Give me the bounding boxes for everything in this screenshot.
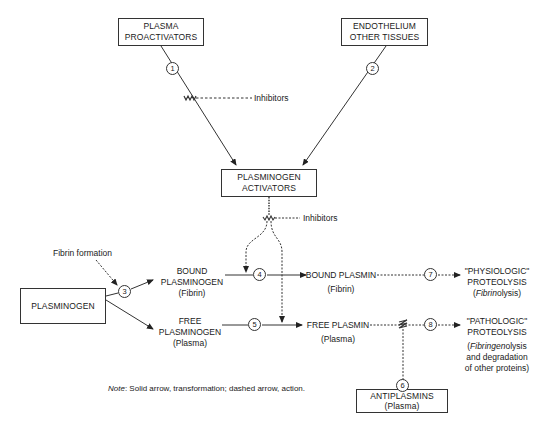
node-label: OTHER TISSUES <box>350 32 420 43</box>
node-antiplasmins: ANTIPLASMINS (Plasma) <box>356 389 448 413</box>
label-bound-plasminogen: BOUND PLASMINOGEN (Fibrin) <box>157 266 227 299</box>
label-line: of other proteins) <box>460 363 534 374</box>
diagram-connectors <box>0 0 539 421</box>
label-part: Fibrin <box>476 288 497 298</box>
step-8-badge: 8 <box>424 318 437 331</box>
label-line: PLASMINOGEN <box>155 327 225 338</box>
label-line: and degradation <box>460 352 534 363</box>
node-label: PLASMINOGEN <box>31 301 94 312</box>
label-line: BOUND PLASMIN <box>305 270 377 281</box>
label-free-plasminogen: FREE PLASMINOGEN (Plasma) <box>155 316 225 349</box>
inhibition-mark-antiplasmin <box>399 320 407 328</box>
node-label: ENDOTHELIUM <box>353 21 416 32</box>
label-line: (Fibrinolysis) <box>460 288 534 299</box>
note-text: : Solid arrow, transformation; dashed ar… <box>125 384 305 393</box>
label-part: Fibringen <box>470 341 505 351</box>
inhibition-mark-mid <box>263 216 275 220</box>
node-label: ANTIPLASMINS <box>370 391 434 401</box>
arrow-plasminogen-to-free <box>106 300 153 329</box>
node-endothelium-other-tissues: ENDOTHELIUM OTHER TISSUES <box>341 18 428 46</box>
step-4-badge: 4 <box>253 268 266 281</box>
diagram-note: Note: Solid arrow, transformation; dashe… <box>108 384 305 394</box>
label-bound-plasmin: BOUND PLASMIN (Fibrin) <box>305 270 377 295</box>
label-pathologic-proteolysis: "PATHOLOGIC" PROTEOLYSIS (Fibringenolysi… <box>460 316 534 374</box>
activator-to-free-plasmin <box>271 221 282 322</box>
node-label: PLASMA <box>143 21 178 32</box>
step-2-badge: 2 <box>366 62 379 75</box>
label-free-plasmin: FREE PLASMIN (Plasma) <box>305 320 371 345</box>
label-part: olysis <box>506 341 527 351</box>
node-label: PLASMINOGEN <box>237 172 300 183</box>
fibrin-formation-line <box>96 260 117 285</box>
label-line: FREE <box>155 316 225 327</box>
label-inhibitors-top: Inhibitors <box>254 93 289 104</box>
label-line: (Plasma) <box>155 338 225 349</box>
node-plasminogen-activators: PLASMINOGEN ACTIVATORS <box>221 169 317 197</box>
label-line: BOUND <box>157 266 227 277</box>
label-inhibitors-mid: Inhibitors <box>303 213 338 224</box>
label-physiologic-proteolysis: "PHYSIOLOGIC" PROTEOLYSIS (Fibrinolysis) <box>460 266 534 299</box>
step-1-badge: 1 <box>166 62 179 75</box>
label-line: (Plasma) <box>305 334 371 345</box>
label-line: (Fibrin) <box>157 288 227 299</box>
label-line: (Fibrin) <box>305 284 377 295</box>
node-label: PROACTIVATORS <box>125 32 198 43</box>
step-6-badge: 6 <box>396 379 409 392</box>
label-line: "PHYSIOLOGIC" <box>460 266 534 277</box>
label-line: (Fibringenolysis <box>460 341 534 352</box>
node-label: (Plasma) <box>385 401 420 411</box>
label-part: olysis) <box>497 288 521 298</box>
node-plasminogen: PLASMINOGEN <box>20 288 106 324</box>
label-line: FREE PLASMIN <box>305 320 371 331</box>
label-line: PROTEOLYSIS <box>460 277 534 288</box>
node-label: ACTIVATORS <box>242 183 296 194</box>
activator-to-step4 <box>246 221 267 272</box>
note-prefix: Note <box>108 384 125 393</box>
arrow-plasminogen-to-bound <box>106 293 118 296</box>
label-fibrin-formation: Fibrin formation <box>53 248 112 259</box>
step-7-badge: 7 <box>424 268 437 281</box>
label-line: PLASMINOGEN <box>157 277 227 288</box>
node-plasma-proactivators: PLASMA PROACTIVATORS <box>118 18 204 46</box>
step-3-badge: 3 <box>118 285 131 298</box>
label-line: "PATHOLOGIC" <box>460 316 534 327</box>
step-5-badge: 5 <box>248 318 261 331</box>
label-line: PROTEOLYSIS <box>460 327 534 338</box>
